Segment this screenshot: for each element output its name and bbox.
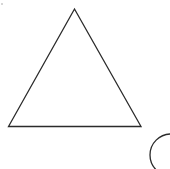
- figure-canvas: [0, 0, 170, 169]
- shapes-svg: [0, 0, 170, 169]
- dust-speck-artifact: [1, 3, 3, 5]
- circle-shape: [150, 134, 170, 169]
- triangle-shape: [9, 9, 142, 127]
